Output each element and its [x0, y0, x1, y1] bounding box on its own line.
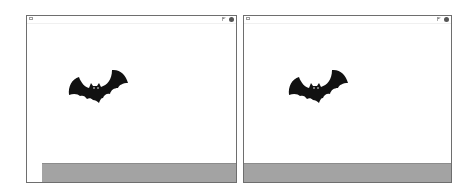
bat-sprite[interactable] [67, 68, 129, 108]
green-flag-icon[interactable] [222, 17, 226, 21]
green-flag-icon[interactable] [437, 17, 441, 21]
stage-right[interactable] [243, 15, 452, 183]
fullscreen-icon[interactable] [29, 17, 33, 20]
stop-icon[interactable] [229, 17, 234, 22]
stage-toolbar [27, 16, 236, 24]
stop-icon[interactable] [444, 17, 449, 22]
stage-left[interactable] [26, 15, 237, 183]
ground-strip [42, 163, 236, 182]
stage-toolbar [244, 16, 451, 24]
fullscreen-icon[interactable] [246, 17, 250, 20]
bat-sprite[interactable] [287, 68, 349, 108]
ground-strip [244, 163, 451, 182]
